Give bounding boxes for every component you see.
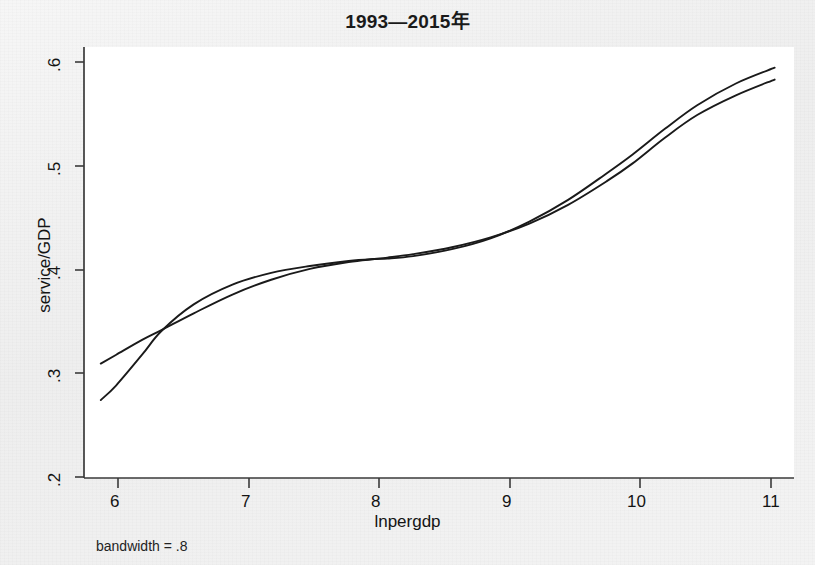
y-axis-ticks — [75, 62, 84, 477]
y-axis-title: service/GDP — [35, 195, 55, 335]
chart-figure: 1993—2015年 .2 .3 .4 .5 — [0, 0, 815, 565]
y-tick-label-3: .5 — [45, 154, 65, 184]
x-tick-label-2: 8 — [371, 492, 380, 512]
plot-area — [0, 0, 815, 565]
x-tick-label-3: 9 — [502, 492, 511, 512]
y-tick-label-0: .2 — [45, 465, 65, 495]
x-axis-title: lnpergdp — [0, 512, 815, 532]
x-tick-label-0: 6 — [110, 492, 119, 512]
y-tick-label-1: .3 — [45, 361, 65, 391]
x-tick-label-4: 10 — [627, 492, 646, 512]
x-tick-label-5: 11 — [762, 492, 780, 512]
bandwidth-footnote: bandwidth = .8 — [96, 538, 187, 554]
x-axis-ticks — [118, 478, 771, 488]
x-tick-label-1: 7 — [241, 492, 250, 512]
y-tick-label-4: .6 — [45, 50, 65, 80]
